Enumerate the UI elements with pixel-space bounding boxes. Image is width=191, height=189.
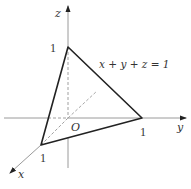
origin-label: O	[71, 121, 80, 134]
x-axis	[10, 145, 41, 173]
y-intercept-label: 1	[140, 125, 146, 139]
plane-equation-label: x + y + z = 1	[99, 58, 170, 70]
z-intercept-label: 1	[50, 41, 56, 55]
x-axis-label: x	[18, 168, 25, 181]
x-axis-negative-dashed	[68, 91, 97, 118]
y-axis-label: y	[176, 121, 184, 134]
z-axis-label: z	[54, 7, 61, 20]
x-intercept-label: 1	[40, 151, 46, 165]
plane-diagram: z y x O 1 1 1 x + y + z = 1	[0, 0, 191, 189]
